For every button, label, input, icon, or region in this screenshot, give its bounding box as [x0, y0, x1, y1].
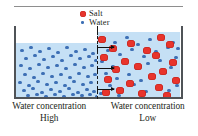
- water-particle: [51, 55, 54, 58]
- captions: Water concentration High Water concentra…: [0, 101, 197, 124]
- water-particle: [83, 48, 86, 51]
- salt-particle: [126, 80, 133, 87]
- water-particle: [63, 84, 66, 87]
- water-particle: [118, 53, 121, 56]
- water-particle: [40, 91, 43, 94]
- water-particle: [71, 93, 74, 96]
- water-particle: [85, 88, 88, 91]
- water-particle: [125, 36, 128, 39]
- water-particle: [31, 87, 34, 90]
- water-particle: [130, 48, 133, 51]
- water-particle: [90, 64, 93, 67]
- water-particle: [54, 81, 57, 84]
- water-particle: [139, 79, 142, 82]
- water-particle: [58, 90, 61, 93]
- water-particle: [92, 90, 95, 93]
- water-particle: [53, 93, 56, 96]
- salt-particle: [100, 54, 107, 61]
- water-particle: [32, 76, 35, 79]
- water-particle: [55, 64, 58, 67]
- caption-left-line2: High: [0, 113, 99, 125]
- water-particle: [56, 51, 59, 54]
- water-particle: [68, 76, 71, 79]
- water-particle: [47, 47, 50, 50]
- salt-particle: [169, 59, 176, 66]
- water-particle: [27, 84, 30, 87]
- water-particle: [49, 88, 52, 91]
- container-tank: [14, 26, 183, 99]
- water-particle: [104, 72, 107, 75]
- water-particle: [46, 66, 49, 69]
- water-particle: [148, 38, 151, 41]
- salt-particle: [98, 36, 105, 43]
- salt-particle: [143, 47, 150, 54]
- water-particle: [169, 66, 172, 69]
- water-particle: [37, 63, 40, 66]
- water-particle: [74, 50, 77, 53]
- water-particle: [77, 72, 80, 75]
- water-particle: [73, 63, 76, 66]
- water-particle: [82, 66, 85, 69]
- water-particle: [87, 55, 90, 58]
- caption-right-line2: Low: [99, 113, 198, 125]
- water-flow-arrow: [97, 89, 114, 90]
- right-compartment-water: [97, 32, 180, 97]
- water-particle: [113, 41, 116, 44]
- water-particle: [64, 67, 67, 70]
- water-particle: [158, 59, 161, 62]
- salt-particle: [138, 90, 145, 97]
- salt-particle: [148, 73, 155, 80]
- water-particle: [38, 50, 41, 53]
- salt-particle: [166, 41, 173, 48]
- salt-particle: [172, 77, 179, 84]
- salt-particle-icon: [76, 9, 89, 18]
- water-particle: [78, 57, 81, 60]
- salt-particle: [152, 52, 159, 59]
- osmosis-diagram: Salt Water Water concentration High Wate…: [0, 0, 197, 136]
- water-particle: [19, 64, 22, 67]
- tank-floor: [14, 97, 183, 99]
- water-particle: [69, 54, 72, 57]
- legend: Salt Water: [76, 9, 136, 27]
- water-particle: [72, 80, 75, 83]
- water-particle: [29, 46, 32, 49]
- top-divider-rule: [14, 6, 183, 7]
- water-particle: [50, 75, 53, 78]
- water-particle: [142, 55, 145, 58]
- water-particle: [35, 93, 38, 96]
- water-particle: [59, 73, 62, 76]
- water-particle: [36, 80, 39, 83]
- water-particle: [91, 52, 94, 55]
- water-particle: [41, 72, 44, 75]
- water-particle: [65, 46, 68, 49]
- caption-left: Water concentration High: [0, 101, 99, 124]
- water-particle: [136, 43, 139, 46]
- salt-particle: [104, 76, 111, 83]
- salt-particle: [121, 58, 128, 65]
- tank-wall-right: [181, 26, 183, 99]
- water-particle: [175, 84, 178, 87]
- salt-particle: [157, 34, 164, 41]
- water-particle: [89, 81, 92, 84]
- water-particle: [45, 83, 48, 86]
- water-particle: [18, 81, 21, 84]
- caption-right: Water concentration Low: [99, 101, 198, 124]
- water-particle: [86, 75, 89, 78]
- salt-particle: [159, 68, 166, 75]
- salt-particle: [127, 40, 134, 47]
- salt-particle: [155, 84, 162, 91]
- water-particle: [67, 87, 70, 90]
- water-particle: [24, 57, 27, 60]
- water-particle: [76, 91, 79, 94]
- water-particle: [33, 54, 36, 57]
- water-particle: [42, 58, 45, 61]
- water-particle: [115, 77, 118, 80]
- water-particle: [176, 47, 179, 50]
- water-particle: [20, 49, 23, 52]
- water-particle: [146, 62, 149, 65]
- water-particle: [108, 84, 111, 87]
- water-particle: [60, 59, 63, 62]
- caption-left-line1: Water concentration: [0, 101, 99, 113]
- water-particle: [23, 73, 26, 76]
- caption-right-line1: Water concentration: [99, 101, 198, 113]
